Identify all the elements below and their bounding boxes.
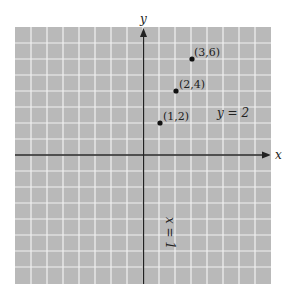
point-label-3-6: (3,6) [194,46,220,59]
point-1-2 [157,120,162,125]
equation-x-1: x = 1 [163,217,177,249]
point-2-4 [173,88,178,93]
y-axis-label: y [139,12,147,26]
point-label-1-2: (1,2) [163,110,189,123]
coordinate-plane: x y (1,2) (2,4) (3,6) y = 2 x = 1 [0,0,293,300]
x-axis-label: x [275,148,282,162]
point-label-2-4: (2,4) [179,78,205,91]
equation-y-2: y = 2 [216,106,249,120]
